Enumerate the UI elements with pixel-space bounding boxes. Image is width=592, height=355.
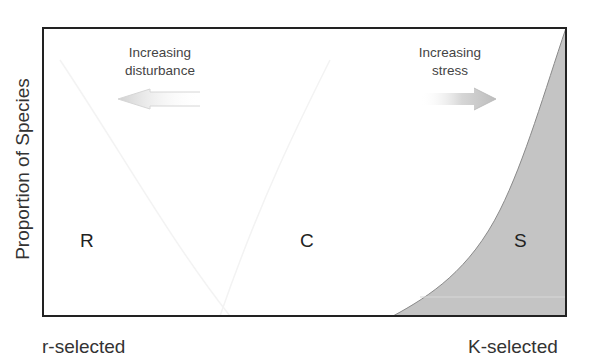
arrow-left-icon [118,89,200,109]
region-label-s: S [514,230,527,252]
annotation-line: stress [410,62,490,80]
diagram-canvas [0,0,592,355]
annotation-line: disturbance [112,62,208,80]
region-label-c: C [300,230,314,252]
y-axis-label: Proportion of Species [12,54,34,284]
annotation-line: Increasing [410,44,490,62]
arrow-right-icon [420,88,496,110]
x-axis-right-label: K-selected [468,336,558,355]
annotation-increasing-disturbance: Increasing disturbance [112,44,208,80]
x-axis-left-label: r-selected [42,336,125,355]
annotation-line: Increasing [112,44,208,62]
region-label-r: R [80,230,94,252]
faint-background-curve [220,60,330,316]
annotation-increasing-stress: Increasing stress [410,44,490,80]
